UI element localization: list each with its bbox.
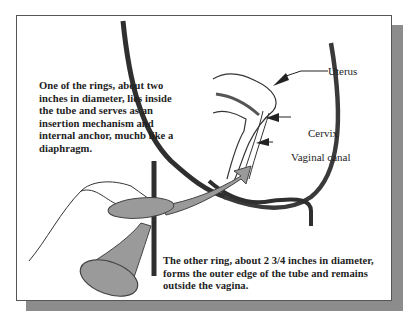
diagram-frame: Uterus Cervix Vaginal canal One of the r…	[16, 15, 392, 301]
caption-outer-ring: The other ring, about 2 3/4 inches in di…	[163, 255, 392, 293]
cervix-arrowhead	[266, 113, 279, 122]
uterus-pointer	[286, 71, 328, 76]
vaginal-arrowhead	[256, 138, 269, 146]
body-contour-leg	[224, 43, 338, 208]
label-cervix: Cervix	[308, 127, 338, 139]
label-uterus: Uterus	[328, 65, 357, 77]
uterus-arrowhead	[273, 73, 289, 86]
caption-inner-ring: One of the rings, about two inches in di…	[39, 80, 179, 156]
inner-ring-device	[107, 195, 174, 221]
label-vaginal-canal: Vaginal canal	[291, 151, 351, 163]
